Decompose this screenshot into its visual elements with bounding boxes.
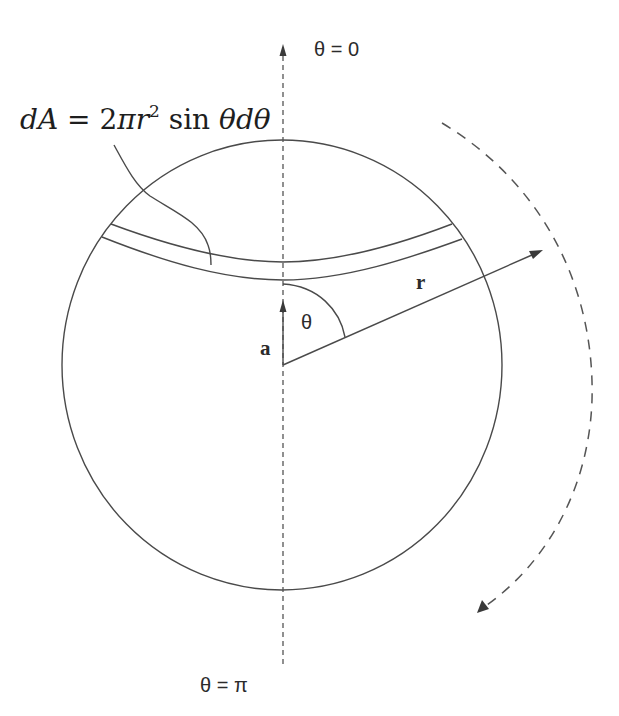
theta-angle-label: θ [301, 312, 312, 332]
equation-dtheta: θ [254, 103, 271, 136]
equation-pi: π [117, 103, 135, 136]
equation-theta: θ [219, 103, 236, 136]
band-lower-curve [102, 237, 462, 280]
rotation-arc-arrowhead-icon [477, 600, 489, 613]
vector-a-label: a [260, 338, 271, 359]
equation-sin: sin [160, 103, 219, 136]
equation-exponent: 2 [149, 101, 160, 121]
equation-d2: d [236, 103, 254, 136]
theta-zero-label: θ = 0 [314, 39, 359, 59]
equation-equals-two: = 2 [58, 103, 117, 136]
theta-pi-label: θ = π [200, 675, 248, 695]
equation-d: d [20, 103, 38, 136]
area-element-equation: dA = 2πr2 sin θdθ [20, 106, 271, 134]
vector-r-arrowhead-icon [529, 250, 543, 259]
rotation-dashed-arc [442, 123, 592, 607]
equation-A: A [38, 103, 58, 136]
vector-r-label: r [416, 272, 425, 293]
polar-axis-arrowhead-icon [280, 44, 287, 56]
equation-r: r [136, 103, 149, 136]
sphere-outline [62, 140, 502, 590]
vector-a-arrowhead-icon [280, 300, 287, 312]
band-upper-curve [111, 224, 452, 262]
theta-angle-arc [283, 284, 345, 337]
